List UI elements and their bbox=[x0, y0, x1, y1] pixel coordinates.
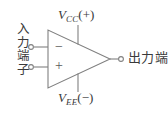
opamp-diagram: − + 入力端子 出力端子 VCC(+) VEE(−) bbox=[0, 0, 168, 114]
negative-supply-symbol: V bbox=[58, 90, 66, 105]
negative-supply-subscript: EE bbox=[66, 97, 77, 107]
positive-supply-polarity: (+) bbox=[78, 7, 94, 22]
input-terminal-label: 入力端子 bbox=[13, 22, 27, 76]
noninverting-input-sign: + bbox=[55, 59, 63, 73]
negative-supply-polarity: (−) bbox=[77, 90, 93, 105]
inverting-input-terminal-node bbox=[29, 45, 34, 50]
positive-supply-label: VCC(+) bbox=[58, 8, 94, 24]
output-terminal-label: 出力端子 bbox=[128, 51, 168, 64]
noninverting-input-terminal-node bbox=[29, 65, 34, 70]
output-terminal-node bbox=[119, 57, 124, 62]
positive-supply-subscript: CC bbox=[66, 14, 78, 24]
positive-supply-symbol: V bbox=[58, 7, 66, 22]
negative-supply-label: VEE(−) bbox=[58, 91, 93, 107]
inverting-input-sign: − bbox=[55, 40, 63, 54]
